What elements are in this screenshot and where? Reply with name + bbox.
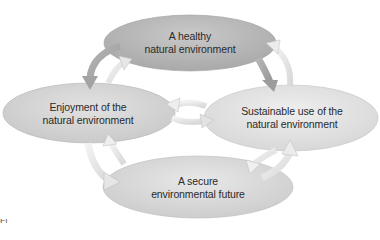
label-line: natural environment xyxy=(38,114,138,127)
arrow-left-to-top xyxy=(108,56,132,83)
label-line: environmental future xyxy=(148,188,248,201)
label-line: natural environment xyxy=(236,118,348,131)
label-line: A healthy xyxy=(140,30,240,43)
label-healthy-environment: A healthy natural environment xyxy=(140,30,240,56)
label-sustainable-use: Sustainable use of the natural environme… xyxy=(236,105,348,131)
label-line: Enjoyment of the xyxy=(38,101,138,114)
label-secure-future: A secure environmental future xyxy=(148,175,248,201)
label-enjoyment: Enjoyment of the natural environment xyxy=(38,101,138,127)
label-line: A secure xyxy=(148,175,248,188)
label-line: Sustainable use of the xyxy=(236,105,348,118)
label-line: natural environment xyxy=(140,43,240,56)
